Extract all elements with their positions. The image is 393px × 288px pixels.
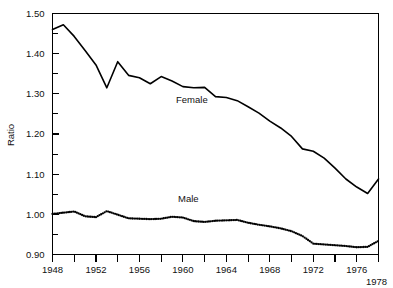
plot-frame <box>53 14 379 255</box>
x-tick-label: 1964 <box>216 264 237 275</box>
y-tick-label: 1.20 <box>26 128 45 139</box>
male-annotation: Male <box>178 193 199 204</box>
x-tick-label: 1968 <box>259 264 280 275</box>
y-tick-label: 1.30 <box>26 88 45 99</box>
x-tick-label: 1972 <box>303 264 324 275</box>
y-tick-label: 1.10 <box>26 169 45 180</box>
x-axis-tick-labels: 19481952195619601964196819721976 <box>42 264 367 275</box>
y-axis-title-text: Ratio <box>5 124 16 146</box>
x-tick-label: 1960 <box>172 264 193 275</box>
female-annotation: Female <box>176 94 208 105</box>
y-axis-tick-labels: 1.501.401.301.201.101.000.90 <box>26 8 45 260</box>
y-axis-major-ticks <box>53 14 59 255</box>
x-tick-label: 1948 <box>42 264 63 275</box>
male-annotation-label: Male <box>178 193 199 204</box>
x-tick-label: 1952 <box>85 264 106 275</box>
x-end-label-text: 1978 <box>366 276 387 287</box>
y-tick-label: 1.40 <box>26 48 45 59</box>
series-female <box>53 25 379 194</box>
x-tick-label: 1976 <box>346 264 367 275</box>
y-axis-title: Ratio <box>5 124 16 146</box>
y-tick-label: 1.00 <box>26 209 45 220</box>
y-tick-label: 0.90 <box>26 249 45 260</box>
female-annotation-label: Female <box>176 94 208 105</box>
series-male <box>51 210 378 248</box>
male-data-dot <box>376 240 378 242</box>
x-axis-end-label: 1978 <box>366 276 387 287</box>
y-tick-label: 1.50 <box>26 8 45 19</box>
chart-container: 1.501.401.301.201.101.000.90 19481952195… <box>0 0 393 288</box>
x-axis-ticks <box>53 255 379 262</box>
ratio-line-chart: 1.501.401.301.201.101.000.90 19481952195… <box>0 0 393 288</box>
female-line <box>53 25 379 194</box>
x-tick-label: 1956 <box>129 264 150 275</box>
